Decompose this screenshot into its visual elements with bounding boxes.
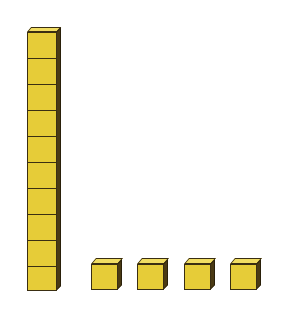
unit-cube-1 xyxy=(91,258,122,290)
rod-front-face xyxy=(27,32,57,291)
unit-cube-2 xyxy=(137,258,168,290)
cube-front-face xyxy=(137,264,164,290)
cube-front-face xyxy=(91,264,118,290)
cube-front-face xyxy=(184,264,211,290)
cube-front-face xyxy=(230,264,257,290)
ten-rod xyxy=(27,27,62,291)
unit-cube-3 xyxy=(184,258,215,290)
unit-cube-4 xyxy=(230,258,261,290)
